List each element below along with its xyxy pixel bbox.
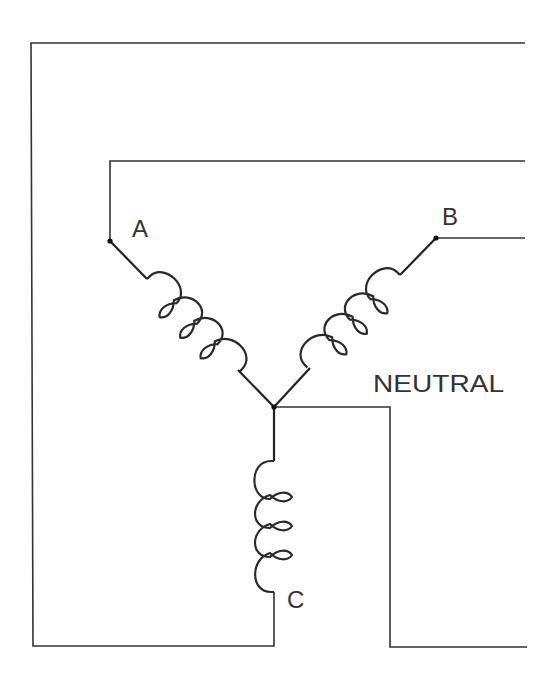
lead-b-to-coil — [400, 238, 436, 275]
label-b: B — [442, 203, 458, 230]
coil-c — [254, 461, 292, 592]
coil-b — [293, 261, 412, 380]
lead-coil-a-to-junction — [238, 370, 274, 407]
label-c: C — [287, 586, 304, 613]
line-c-wire — [31, 43, 525, 646]
terminal-b-dot — [433, 235, 438, 240]
terminal-a-dot — [107, 238, 112, 243]
coil-a — [134, 265, 253, 384]
lead-a-to-coil — [110, 241, 147, 279]
label-neutral: NEUTRAL — [373, 370, 504, 397]
neutral-wire — [274, 407, 527, 647]
label-a: A — [132, 215, 148, 242]
line-a-wire — [110, 161, 525, 241]
neutral-junction-dot — [271, 404, 276, 409]
wye-winding-diagram: A B NEUTRAL C — [0, 0, 553, 677]
lead-coil-b-to-junction — [274, 368, 310, 407]
